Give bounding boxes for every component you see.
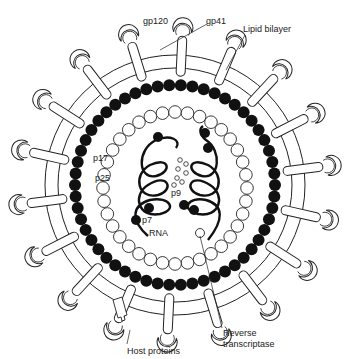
spike (54, 258, 108, 314)
label-p17: p17 (93, 153, 108, 163)
spike (233, 266, 284, 325)
label-host-proteins: Host proteins (127, 346, 180, 356)
label-p7: p7 (142, 215, 152, 225)
spike (242, 56, 296, 112)
label-p25: p25 (95, 173, 110, 183)
spike (279, 200, 340, 232)
label-gp41: gp41 (206, 16, 226, 26)
spike (22, 226, 83, 270)
spike (282, 154, 342, 181)
label-rna: RNA (149, 228, 168, 238)
spike (208, 27, 249, 89)
label-reverse-transcriptase-1: Reverse (223, 328, 257, 338)
label-lipid-bilayer: Lipid bilayer (243, 24, 291, 34)
label-reverse-transcriptase-2: transcriptase (223, 339, 275, 349)
hiv-virion-diagram (0, 0, 351, 359)
spike (116, 22, 152, 84)
spike (10, 138, 71, 170)
label-p9: p9 (171, 188, 181, 198)
label-gp120: gp120 (143, 16, 168, 26)
spike (66, 46, 117, 105)
spike (267, 100, 328, 144)
spike (8, 189, 68, 216)
